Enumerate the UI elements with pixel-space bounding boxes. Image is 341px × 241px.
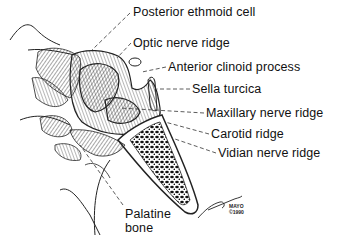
label-optic-nerve-ridge: Optic nerve ridge (133, 37, 230, 50)
label-sella-turcica: Sella turcica (192, 83, 261, 96)
label-anterior-clinoid-process: Anterior clinoid process (168, 61, 300, 74)
label-palatine-bone-line2: bone (125, 222, 153, 235)
label-vidian-nerve-ridge: Vidian nerve ridge (218, 147, 320, 160)
signature-year: ©1990 (229, 210, 244, 215)
label-posterior-ethmoid-cell: Posterior ethmoid cell (133, 6, 255, 19)
cancellous-bone-wedge (118, 115, 198, 214)
label-maxillary-nerve-ridge: Maxillary nerve ridge (206, 107, 323, 120)
label-palatine-bone-line1: Palatine (125, 208, 171, 221)
label-carotid-ridge: Carotid ridge (211, 128, 284, 141)
